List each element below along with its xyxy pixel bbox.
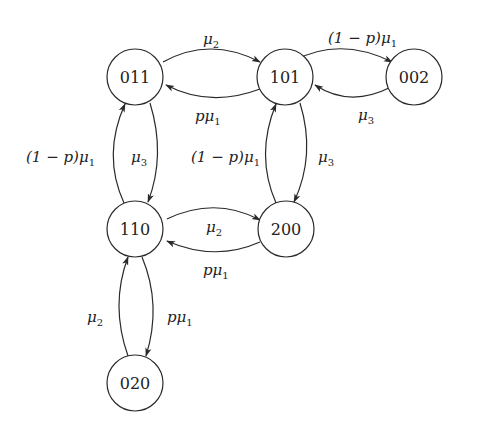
state-label-101: 101 [270, 68, 301, 87]
edge-011-to-101 [163, 49, 260, 62]
edge-label-020-110: μ2 [87, 308, 103, 328]
state-node-020: 020 [107, 355, 163, 411]
edge-label-101-200: μ3 [318, 148, 334, 168]
edge-101-to-200 [294, 103, 307, 202]
state-node-101: 101 [257, 49, 313, 105]
edge-110-to-020 [142, 257, 153, 356]
edge-002-to-101 [315, 85, 391, 97]
state-node-002: 002 [386, 49, 442, 105]
edge-011-to-110 [148, 103, 158, 202]
edge-label-002-101: μ3 [358, 106, 374, 126]
edge-label-110-020: pμ1 [167, 308, 193, 328]
edge-020-to-110 [119, 257, 128, 356]
state-label-002: 002 [399, 68, 430, 87]
state-node-110: 110 [107, 201, 163, 257]
edge-label-110-011: (1 − p)μ1 [26, 148, 95, 168]
state-diagram: 011 101 002 110 200 020 μ2 pμ1 (1 − p)μ1… [0, 0, 497, 432]
edge-label-011-101: μ2 [203, 30, 219, 50]
edge-200-to-101 [266, 104, 277, 203]
state-label-110: 110 [120, 220, 151, 239]
state-label-200: 200 [271, 220, 302, 239]
edge-label-200-110: pμ1 [203, 261, 229, 281]
edge-label-011-110: μ3 [131, 148, 147, 168]
edge-110-to-011 [113, 104, 125, 203]
state-node-200: 200 [258, 201, 314, 257]
state-label-020: 020 [120, 374, 151, 393]
edge-label-101-011: pμ1 [195, 107, 221, 127]
edge-200-to-110 [167, 241, 260, 252]
state-node-011: 011 [107, 49, 163, 105]
state-label-011: 011 [120, 68, 151, 87]
edge-101-to-011 [166, 85, 260, 98]
edge-label-200-101: (1 − p)μ1 [191, 148, 260, 168]
edge-label-110-200: μ2 [206, 218, 222, 238]
edge-label-101-002: (1 − p)μ1 [328, 29, 397, 49]
